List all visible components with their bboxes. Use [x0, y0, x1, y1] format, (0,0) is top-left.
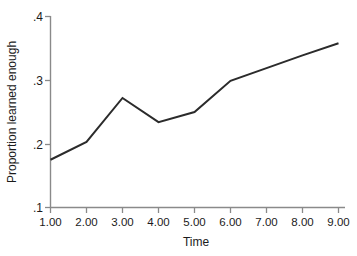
x-tick-label: 7.00 — [255, 216, 277, 228]
x-tick-label: 5.00 — [183, 216, 205, 228]
x-tick-label: 3.00 — [111, 216, 133, 228]
y-tick-label: .1 — [33, 201, 43, 215]
x-axis-title: Time — [183, 235, 210, 249]
y-tick-label: .4 — [33, 10, 43, 24]
x-tick-label: 8.00 — [291, 216, 313, 228]
chart-figure: .4 .3 .2 .1 1.00 2.00 3.00 4.00 5.00 6.0… — [0, 0, 357, 256]
x-tick-label: 9.00 — [327, 216, 349, 228]
y-tick-label: .2 — [33, 138, 43, 152]
x-tick-label: 1.00 — [39, 216, 61, 228]
line-chart-plot: .4 .3 .2 .1 1.00 2.00 3.00 4.00 5.00 6.0… — [0, 0, 357, 256]
x-tick-label: 4.00 — [147, 216, 169, 228]
y-tick-label: .3 — [33, 74, 43, 88]
y-axis-title: Proportion learned enough — [5, 41, 19, 183]
x-tick-label: 2.00 — [75, 216, 97, 228]
x-tick-labels: 1.00 2.00 3.00 4.00 5.00 6.00 7.00 8.00 … — [39, 216, 349, 228]
x-tick-label: 6.00 — [219, 216, 241, 228]
